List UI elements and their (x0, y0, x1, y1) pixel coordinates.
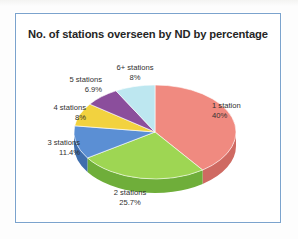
pie-label-1-station-percent: 40% (212, 111, 241, 121)
pie-label-2-stations-percent: 25.7% (94, 198, 166, 208)
pie-label-6-plus-stations-percent: 8% (100, 73, 170, 83)
pie-label-6-plus-stations-name: 6+ stations (100, 63, 170, 73)
pie-label-3-stations-name: 3 stations (16, 138, 80, 148)
pie-label-5-stations-name: 5 stations (38, 75, 102, 85)
pie-label-5-stations: 5 stations 6.9% (38, 75, 102, 94)
chart-frame: No. of stations overseen by ND by percen… (15, 13, 281, 223)
pie-label-3-stations-percent: 11.4% (16, 148, 80, 158)
pie-top-face (74, 85, 236, 179)
pie-label-2-stations-name: 2 stations (94, 188, 166, 198)
pie-label-1-station: 1 station 40% (212, 101, 241, 120)
pie-label-4-stations-percent: 8% (22, 113, 86, 123)
pie-label-4-stations: 4 stations 8% (22, 103, 86, 122)
pie-label-1-station-name: 1 station (212, 101, 241, 111)
pie-label-3-stations: 3 stations 11.4% (16, 138, 80, 157)
pie-label-2-stations: 2 stations 25.7% (94, 188, 166, 207)
screenshot-canvas: No. of stations overseen by ND by percen… (0, 0, 298, 239)
pie-chart: 1 station 40% 2 stations 25.7% 3 station… (16, 14, 282, 224)
pie-label-6-plus-stations: 6+ stations 8% (100, 63, 170, 82)
pie-label-5-stations-percent: 6.9% (38, 85, 102, 95)
pie-label-4-stations-name: 4 stations (22, 103, 86, 113)
